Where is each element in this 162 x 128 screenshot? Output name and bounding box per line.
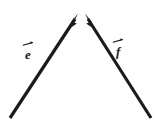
vector-canvas <box>0 0 162 128</box>
vector-f-shaft <box>88 19 151 118</box>
vector-label-e-text: e <box>25 47 31 62</box>
vector-arrow-accent-icon <box>22 41 33 47</box>
vector-label-f-text: f <box>116 44 120 59</box>
vector-label-f-glyph: f <box>116 45 120 58</box>
vector-label-f: f <box>116 45 120 58</box>
vector-e-group <box>10 14 78 119</box>
vector-label-e-glyph: e <box>25 48 31 61</box>
vector-arrow-accent-icon <box>113 38 124 44</box>
vector-diagram: e f <box>0 0 162 128</box>
vector-e-shaft <box>10 19 75 118</box>
vector-label-e: e <box>25 48 31 61</box>
vector-f-group <box>85 14 151 119</box>
